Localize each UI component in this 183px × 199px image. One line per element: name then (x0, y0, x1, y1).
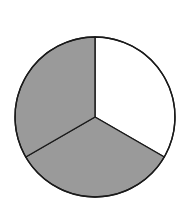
pie-chart (0, 0, 183, 199)
pie-slices (15, 37, 175, 197)
